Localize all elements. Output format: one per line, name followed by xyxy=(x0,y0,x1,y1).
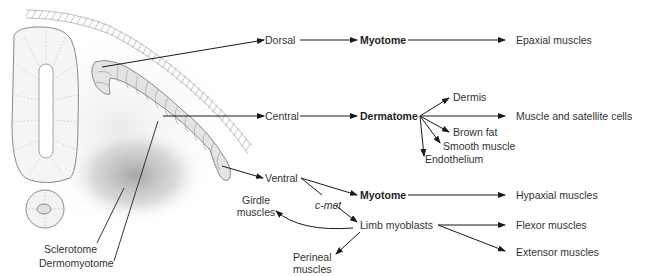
brown-fat-label: Brown fat xyxy=(453,126,497,138)
perineal-line1: Perineal xyxy=(293,251,332,263)
flexor-muscles-label: Flexor muscles xyxy=(516,219,587,231)
notochord xyxy=(26,190,64,228)
neural-tube xyxy=(12,27,78,183)
sclerotome-label: Sclerotome xyxy=(44,243,97,255)
girdle-line1: Girdle xyxy=(232,194,280,206)
endothelium-label: Endothelium xyxy=(425,153,483,165)
perineal-muscles-label: Perineal muscles xyxy=(293,251,332,275)
c-met-label: c-met xyxy=(315,199,341,211)
epaxial-muscles-label: Epaxial muscles xyxy=(516,34,592,46)
ventral-label: Ventral xyxy=(265,172,298,184)
girdle-line2: muscles xyxy=(232,206,280,218)
c-met-line xyxy=(301,178,322,195)
dorsal-label: Dorsal xyxy=(265,34,295,46)
sclerotome-shading xyxy=(65,127,205,223)
dorsal-myotome-label: Myotome xyxy=(360,34,406,46)
dermomyotome-label: Dermomyotome xyxy=(39,257,114,269)
ventral-myotome-label: Myotome xyxy=(360,189,406,201)
dermis-label: Dermis xyxy=(453,91,486,103)
perineal-line2: muscles xyxy=(293,263,332,275)
hypaxial-muscles-label: Hypaxial muscles xyxy=(516,189,598,201)
limb-myoblasts-label: Limb myoblasts xyxy=(360,219,433,231)
smooth-muscle-label: Smooth muscle xyxy=(443,140,515,152)
myotome-lineage-diagram: Sclerotome Dermomyotome Dorsal Myotome E… xyxy=(0,0,656,276)
extensor-muscles-label: Extensor muscles xyxy=(516,246,599,258)
muscle-satellite-cells-label: Muscle and satellite cells xyxy=(516,110,632,122)
dermatome-label: Dermatome xyxy=(360,110,418,122)
girdle-muscles-label: Girdle muscles xyxy=(232,194,280,218)
central-label: Central xyxy=(265,110,299,122)
